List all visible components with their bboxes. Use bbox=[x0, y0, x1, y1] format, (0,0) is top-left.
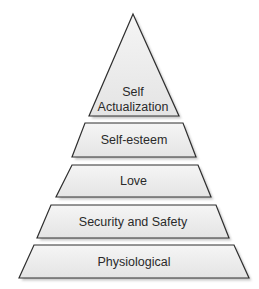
tier-label: Self bbox=[122, 85, 144, 99]
tier-label: Physiological bbox=[98, 255, 171, 269]
pyramid-tier-physiological: Physiological bbox=[19, 245, 252, 281]
pyramid-diagram: SelfActualizationSelf-esteemLoveSecurity… bbox=[0, 0, 259, 289]
tier-label: Security and Safety bbox=[79, 215, 188, 229]
pyramid-tier-self-esteem: Self-esteem bbox=[72, 123, 199, 160]
pyramid-tier-self-actualization: SelfActualization bbox=[89, 14, 182, 119]
pyramid-tier-security-and-safety: Security and Safety bbox=[37, 205, 232, 241]
tier-label: Self-esteem bbox=[101, 133, 168, 147]
tier-label: Love bbox=[120, 174, 147, 188]
pyramid-tier-love: Love bbox=[56, 165, 214, 200]
tier-label: Actualization bbox=[98, 100, 169, 114]
